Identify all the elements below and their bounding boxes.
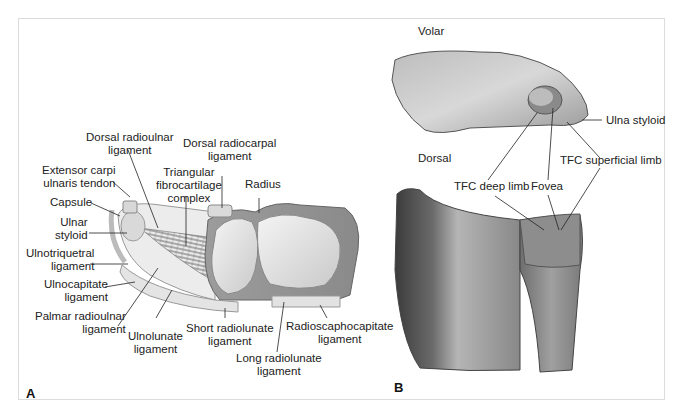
label-tfc-superficial-limb: TFC superficial limb [560,154,662,167]
label-ulna-styloid: Ulna styloid [606,114,665,127]
panel-b-drawing [392,51,588,372]
label-line: Extensor carpi [42,164,116,177]
label-ulnocapitate-ligament: Ulnocapitate ligament [44,278,108,304]
label-line: Palmar radioulnar [35,310,126,323]
label-line: Long radiolunate [236,352,322,365]
label-radius: Radius [245,178,281,191]
label-line: ligament [86,144,174,157]
panel-letter-b: B [394,380,403,395]
label-line: ligament [26,260,94,273]
label-capsule: Capsule [50,196,92,209]
label-tfc-deep-limb: TFC deep limb [454,180,529,193]
label-line: ligament [286,333,393,346]
label-line: fibrocartilage [156,179,222,192]
label-line: Dorsal radiocarpal [183,137,276,150]
label-dorsal-radiocarpal-ligament: Dorsal radiocarpal ligament [183,137,276,163]
label-line: Ulnolunate [128,330,183,343]
label-line: ligament [35,323,126,336]
label-ulnolunate-ligament: Ulnolunate ligament [128,330,183,356]
label-line: ligament [186,335,274,348]
label-line: Triangular [156,166,222,179]
label-line: ligament [128,343,183,356]
label-dorsal: Dorsal [418,152,451,165]
label-tfcc: Triangular fibrocartilage complex [156,166,222,205]
label-line: styloid [55,229,88,242]
label-volar: Volar [418,25,444,38]
label-ulnar-styloid: Ulnar styloid [55,216,88,242]
label-line: ulnaris tendon [42,177,116,190]
label-radioscaphocapitate-ligament: Radioscaphocapitate ligament [286,320,393,346]
label-line: Short radiolunate [186,322,274,335]
label-palmar-radioulnar-ligament: Palmar radioulnar ligament [35,310,126,336]
label-line: Radioscaphocapitate [286,320,393,333]
label-ulnotriquetral-ligament: Ulnotriquetral ligament [26,247,94,273]
label-fovea: Fovea [531,180,563,193]
label-long-radiolunate-ligament: Long radiolunate ligament [236,352,322,378]
label-line: Dorsal radioulnar [86,131,174,144]
label-line: Ulnotriquetral [26,247,94,260]
panel-a-drawing [111,201,359,312]
anatomy-illustration [0,0,681,412]
label-line: Ulnar [55,216,88,229]
label-line: complex [156,192,222,205]
label-line: ligament [236,365,322,378]
label-extensor-carpi-ulnaris-tendon: Extensor carpi ulnaris tendon [42,164,116,190]
label-short-radiolunate-ligament: Short radiolunate ligament [186,322,274,348]
label-line: ligament [183,150,276,163]
panel-letter-a: A [26,386,35,401]
label-line: Ulnocapitate [44,278,108,291]
label-dorsal-radioulnar-ligament: Dorsal radioulnar ligament [86,131,174,157]
label-line: ligament [44,291,108,304]
